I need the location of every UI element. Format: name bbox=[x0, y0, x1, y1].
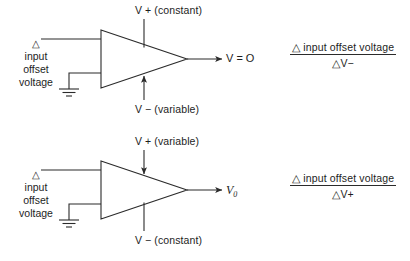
vminus-label-bottom: V − (constant) bbox=[135, 234, 202, 246]
formula-top-denominator: △V− bbox=[290, 55, 396, 69]
input-offset-voltage-label-top: △ input offset voltage bbox=[4, 38, 68, 89]
formula-bottom-denominator: △V+ bbox=[290, 186, 396, 200]
input-word-top: input bbox=[4, 50, 68, 63]
input-word-bottom: input bbox=[4, 181, 68, 194]
offset-word-top: offset bbox=[4, 63, 68, 76]
voltage-word-bottom: voltage bbox=[4, 207, 68, 220]
vplus-label-bottom: V + (variable) bbox=[135, 135, 199, 147]
delta-symbol-bottom: △ bbox=[4, 169, 68, 181]
offset-word-bottom: offset bbox=[4, 194, 68, 207]
formula-bottom: △ input offset voltage △V+ bbox=[290, 172, 396, 200]
diagram-canvas: V + (constant) △ input offset voltage V … bbox=[0, 0, 410, 261]
formula-top-numerator: △ input offset voltage bbox=[290, 41, 396, 55]
output-label-top: V = O bbox=[226, 52, 254, 65]
vminus-label-top: V − (variable) bbox=[135, 103, 199, 115]
input-offset-voltage-label-bottom: △ input offset voltage bbox=[4, 169, 68, 220]
input-wire-bottom-lower bbox=[69, 204, 101, 220]
bottom-circuit-group bbox=[41, 150, 222, 231]
output-label-bottom: V0 bbox=[226, 183, 237, 200]
output-subscript-bottom: 0 bbox=[233, 190, 237, 199]
vplus-label-top: V + (constant) bbox=[135, 4, 202, 16]
input-wire-top-lower bbox=[69, 73, 101, 89]
formula-bottom-numerator: △ input offset voltage bbox=[290, 172, 396, 186]
voltage-word-top: voltage bbox=[4, 76, 68, 89]
top-circuit-group bbox=[41, 19, 222, 100]
delta-symbol-top: △ bbox=[4, 38, 68, 50]
formula-top: △ input offset voltage △V− bbox=[290, 41, 396, 69]
